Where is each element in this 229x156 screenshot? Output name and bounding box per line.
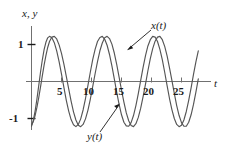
curve-label-x: x(t) <box>151 20 166 31</box>
y-axis-title: x, y <box>22 8 37 19</box>
y-label-arrow-line <box>100 105 119 132</box>
y-tick-label-negative-one: -1 <box>9 113 18 124</box>
x-tick-label-15: 15 <box>113 86 124 97</box>
plot-canvas <box>0 0 229 156</box>
curve-label-y: y(t) <box>87 131 102 142</box>
x-tick-label-25: 25 <box>173 86 184 97</box>
figure-container: x, y t 1 -1 5 10 15 20 25 x(t) y(t) <box>0 0 229 156</box>
x-tick-label-10: 10 <box>83 86 94 97</box>
x-axis-title: t <box>214 78 217 89</box>
y-tick-label-positive-one: 1 <box>18 39 24 50</box>
x-tick-label-20: 20 <box>143 86 154 97</box>
x-tick-label-5: 5 <box>57 86 63 97</box>
